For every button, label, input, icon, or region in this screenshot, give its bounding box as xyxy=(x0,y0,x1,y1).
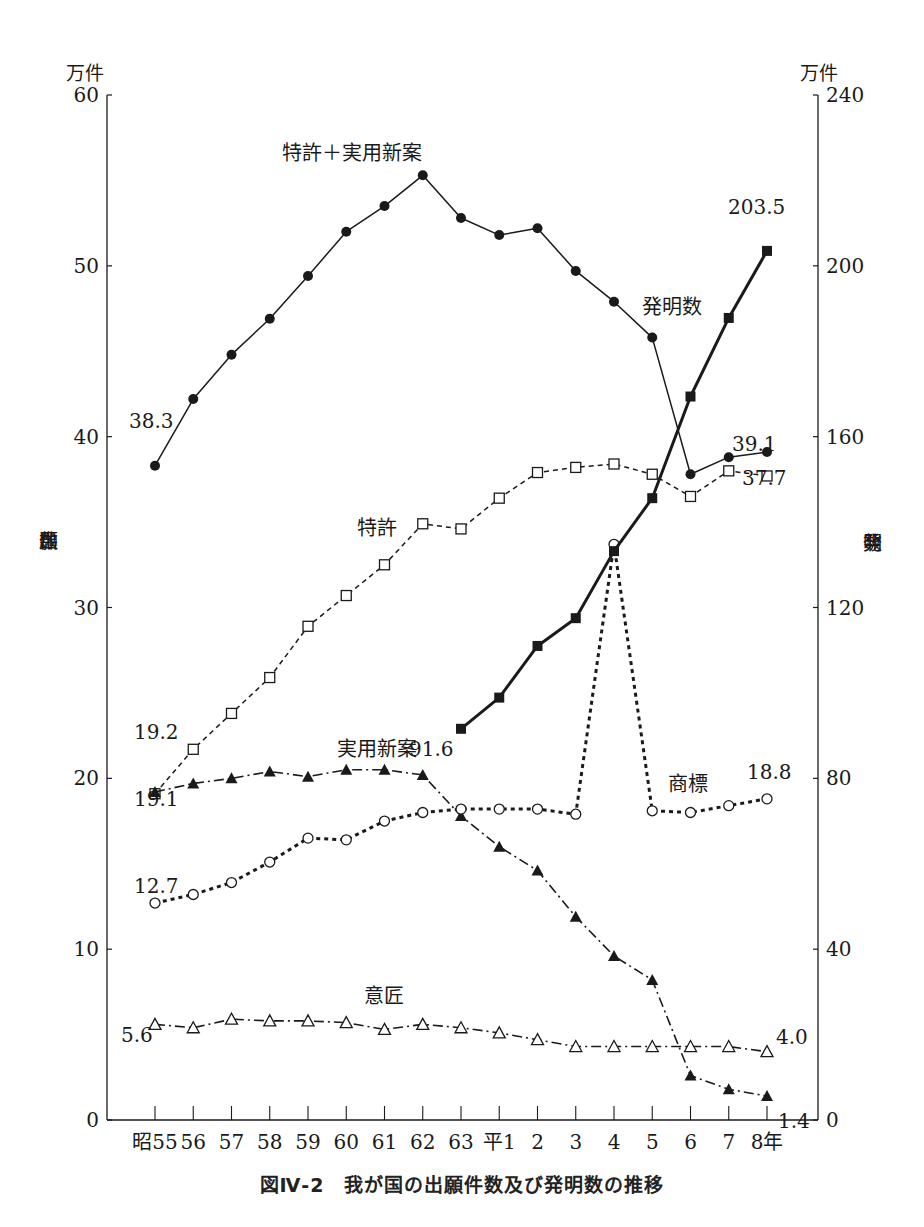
open-circle-marker-icon xyxy=(380,816,390,826)
x-axis-tick-label: 昭55 xyxy=(132,1130,177,1154)
x-axis-tick-label: 62 xyxy=(410,1130,435,1154)
open-circle-marker-icon xyxy=(341,835,351,845)
x-axis-tick-label: 58 xyxy=(257,1130,282,1154)
x-axis-tick-label: 6 xyxy=(684,1130,697,1154)
open-square-marker-icon xyxy=(380,560,390,570)
filled-triangle-marker-icon xyxy=(761,1090,773,1101)
filled-circle-marker-icon xyxy=(150,461,160,471)
filled-circle-marker-icon xyxy=(380,201,390,211)
open-square-marker-icon xyxy=(303,621,313,631)
right-axis-tick-label: 240 xyxy=(826,83,864,107)
x-axis-tick-label: 7 xyxy=(722,1130,735,1154)
filled-circle-marker-icon xyxy=(188,394,198,404)
series-line xyxy=(155,544,767,903)
filled-triangle-marker-icon xyxy=(264,766,276,777)
filled-circle-marker-icon xyxy=(265,314,275,324)
filled-circle-marker-icon xyxy=(494,230,504,240)
open-circle-marker-icon xyxy=(762,794,772,804)
filled-circle-marker-icon xyxy=(647,333,657,343)
right-axis-tick-label: 80 xyxy=(826,766,851,790)
right-axis-tick-label: 160 xyxy=(826,425,864,449)
open-square-marker-icon xyxy=(571,462,581,472)
x-axis-tick-label: 57 xyxy=(219,1130,244,1154)
filled-square-marker-icon xyxy=(724,313,734,323)
open-square-marker-icon xyxy=(686,491,696,501)
x-axis-tick-label: 5 xyxy=(646,1130,659,1154)
open-circle-marker-icon xyxy=(418,808,428,818)
line-chart: 010203040506004080120160200240昭555657585… xyxy=(0,0,924,1160)
right-axis-tick-label: 120 xyxy=(826,596,864,620)
filled-triangle-marker-icon xyxy=(302,771,314,782)
filled-square-marker-icon xyxy=(647,493,657,503)
series-annotation-label: 意匠 xyxy=(364,984,404,1008)
filled-triangle-marker-icon xyxy=(646,974,658,985)
open-square-marker-icon xyxy=(418,519,428,529)
left-axis-tick-label: 50 xyxy=(74,254,99,278)
x-axis-tick-label: 平1 xyxy=(483,1130,516,1154)
filled-square-marker-icon xyxy=(571,613,581,623)
open-circle-marker-icon xyxy=(303,833,313,843)
right-axis-tick-label: 200 xyxy=(826,254,864,278)
series-annotation-label: 特許 xyxy=(357,516,397,540)
value-label: 4.0 xyxy=(776,1025,808,1049)
filled-square-marker-icon xyxy=(533,641,543,651)
value-label: 5.6 xyxy=(121,1023,153,1047)
x-axis-tick-label: 60 xyxy=(334,1130,359,1154)
value-label: 39.1 xyxy=(732,432,777,456)
x-axis-tick-label: 61 xyxy=(372,1130,397,1154)
right-axis-tick-label: 0 xyxy=(826,1108,839,1132)
filled-square-marker-icon xyxy=(456,724,466,734)
open-triangle-marker-icon xyxy=(417,1018,429,1029)
filled-circle-marker-icon xyxy=(533,223,543,233)
series-line xyxy=(461,251,767,729)
open-triangle-marker-icon xyxy=(761,1046,773,1057)
open-square-marker-icon xyxy=(341,591,351,601)
left-axis-tick-label: 10 xyxy=(74,937,99,961)
value-label: 37.7 xyxy=(742,466,787,490)
filled-square-marker-icon xyxy=(609,546,619,556)
left-axis-tick-label: 0 xyxy=(86,1108,99,1132)
x-axis-tick-label: 63 xyxy=(448,1130,473,1154)
open-square-marker-icon xyxy=(188,744,198,754)
open-circle-marker-icon xyxy=(724,801,734,811)
filled-circle-marker-icon xyxy=(341,227,351,237)
filled-circle-marker-icon xyxy=(571,266,581,276)
x-axis-tick-label: 56 xyxy=(181,1130,206,1154)
open-square-marker-icon xyxy=(609,459,619,469)
chart-axes: 010203040506004080120160200240昭555657585… xyxy=(74,83,865,1154)
series-annotation-label: 商標 xyxy=(668,772,708,796)
right-axis-tick-label: 40 xyxy=(826,937,851,961)
filled-triangle-marker-icon xyxy=(493,841,505,852)
open-triangle-marker-icon xyxy=(723,1041,735,1052)
left-axis-tick-label: 60 xyxy=(74,83,99,107)
open-square-marker-icon xyxy=(494,493,504,503)
open-circle-marker-icon xyxy=(494,804,504,814)
x-axis-tick-label: 59 xyxy=(295,1130,320,1154)
filled-triangle-marker-icon xyxy=(340,764,352,775)
x-axis-tick-label: 8年 xyxy=(751,1130,784,1154)
figure-caption: 図Ⅳ-2 我が国の出願件数及び発明数の推移 xyxy=(0,1170,924,1197)
filled-triangle-marker-icon xyxy=(723,1083,735,1094)
filled-triangle-marker-icon xyxy=(685,1070,697,1081)
filled-square-marker-icon xyxy=(494,693,504,703)
value-label: 1.4 xyxy=(778,1109,810,1133)
open-circle-marker-icon xyxy=(227,878,237,888)
filled-square-marker-icon xyxy=(686,392,696,402)
series-annotation-label: 実用新案 xyxy=(337,737,417,761)
open-circle-marker-icon xyxy=(265,857,275,867)
filled-triangle-marker-icon xyxy=(532,865,544,876)
filled-circle-marker-icon xyxy=(227,350,237,360)
open-square-marker-icon xyxy=(647,469,657,479)
left-axis-tick-label: 40 xyxy=(74,425,99,449)
open-circle-marker-icon xyxy=(533,804,543,814)
left-axis-tick-label: 30 xyxy=(74,596,99,620)
open-circle-marker-icon xyxy=(686,808,696,818)
value-label: 18.8 xyxy=(747,760,792,784)
value-label: 203.5 xyxy=(728,195,785,219)
x-axis-tick-label: 4 xyxy=(608,1130,621,1154)
x-axis-tick-label: 2 xyxy=(531,1130,544,1154)
filled-circle-marker-icon xyxy=(686,469,696,479)
open-circle-marker-icon xyxy=(571,809,581,819)
x-axis-tick-label: 3 xyxy=(569,1130,582,1154)
series-annotation-label: 特許＋実用新案 xyxy=(282,141,422,165)
